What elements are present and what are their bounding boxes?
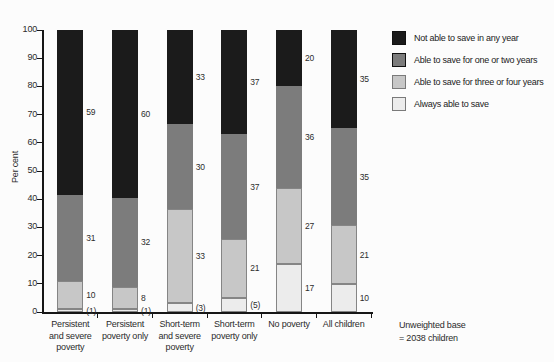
segment-value-label: (5)	[250, 300, 260, 310]
y-axis-line	[42, 30, 44, 314]
legend: Not able to save in any yearAble to save…	[392, 31, 544, 119]
y-tick-label: 10	[8, 278, 37, 288]
unweighted-base-note: Unweighted base = 2038 children	[399, 319, 466, 344]
segment-value-label: (1)	[86, 306, 96, 316]
y-tick	[37, 171, 42, 172]
y-tick	[37, 114, 42, 115]
bar-segment	[276, 264, 302, 312]
x-tick	[152, 314, 153, 318]
y-tick	[37, 283, 42, 284]
bar-segment	[167, 124, 193, 209]
segment-value-label: 33	[196, 72, 205, 82]
bar-segment	[331, 225, 357, 284]
segment-value-label: 17	[305, 283, 314, 293]
bar-segment	[57, 309, 83, 312]
x-tick	[207, 314, 208, 318]
bar-segment	[112, 287, 138, 309]
legend-item: Always able to save	[392, 97, 544, 111]
segment-value-label: (1)	[141, 306, 151, 316]
y-tick-label: 90	[8, 52, 37, 62]
bar-segment	[276, 188, 302, 264]
bar-segment	[167, 30, 193, 124]
legend-label: Not able to save in any year	[414, 33, 519, 43]
bar-segment	[276, 30, 302, 86]
bar-segment	[112, 198, 138, 287]
x-category-label: All children	[302, 319, 386, 331]
bar-segment	[331, 128, 357, 226]
segment-value-label: 27	[305, 221, 314, 231]
segment-value-label: 10	[86, 290, 95, 300]
y-tick	[37, 255, 42, 256]
bar-segment	[221, 134, 247, 238]
segment-value-label: (3)	[196, 303, 206, 313]
segment-value-label: 37	[250, 77, 259, 87]
y-tick	[37, 142, 42, 143]
segment-value-label: 21	[250, 263, 259, 273]
bar-segment	[167, 209, 193, 303]
legend-item: Not able to save in any year	[392, 31, 544, 45]
y-tick	[37, 199, 42, 200]
segment-value-label: 8	[141, 293, 146, 303]
y-tick	[37, 312, 42, 313]
y-tick	[37, 30, 42, 31]
segment-value-label: 32	[141, 237, 150, 247]
stacked-bar-chart: Per cent Not able to save in any yearAbl…	[0, 0, 554, 362]
segment-value-label: 20	[305, 53, 314, 63]
y-tick-label: 100	[8, 24, 37, 34]
x-tick	[316, 314, 317, 318]
x-tick	[97, 314, 98, 318]
segment-value-label: 35	[360, 172, 369, 182]
y-tick-label: 70	[8, 109, 37, 119]
segment-value-label: 33	[196, 251, 205, 261]
y-tick-label: 80	[8, 80, 37, 90]
segment-value-label: 21	[360, 250, 369, 260]
y-tick-label: 30	[8, 221, 37, 231]
bar-segment	[57, 281, 83, 309]
bar-segment	[57, 195, 83, 282]
bar-segment	[112, 30, 138, 198]
y-tick	[37, 58, 42, 59]
bar-segment	[112, 309, 138, 312]
y-tick	[37, 227, 42, 228]
bar-segment	[167, 303, 193, 312]
bar-segment	[331, 284, 357, 312]
segment-value-label: 10	[360, 293, 369, 303]
segment-value-label: 37	[250, 182, 259, 192]
legend-swatch	[392, 97, 406, 111]
segment-value-label: 35	[360, 74, 369, 84]
legend-swatch	[392, 75, 406, 89]
bar-segment	[221, 239, 247, 298]
legend-item: Able to save for one or two years	[392, 53, 544, 67]
y-tick-label: 60	[8, 137, 37, 147]
segment-value-label: 30	[196, 162, 205, 172]
legend-item: Able to save for three or four years	[392, 75, 544, 89]
segment-value-label: 36	[305, 132, 314, 142]
y-tick-label: 40	[8, 193, 37, 203]
bar-segment	[221, 298, 247, 312]
bar-segment	[221, 30, 247, 134]
y-tick-label: 20	[8, 250, 37, 260]
y-tick-label: 50	[8, 165, 37, 175]
x-tick	[261, 314, 262, 318]
segment-value-label: 59	[86, 107, 95, 117]
bar-segment	[57, 30, 83, 195]
legend-label: Able to save for three or four years	[414, 77, 544, 87]
bar-segment	[331, 30, 357, 128]
segment-value-label: 60	[141, 109, 150, 119]
legend-label: Always able to save	[414, 99, 489, 109]
legend-swatch	[392, 31, 406, 45]
bar-segment	[276, 86, 302, 188]
x-tick	[371, 314, 372, 318]
y-tick	[37, 86, 42, 87]
legend-swatch	[392, 53, 406, 67]
legend-label: Able to save for one or two years	[414, 55, 537, 65]
segment-value-label: 31	[86, 233, 95, 243]
y-tick-label: 0	[8, 306, 37, 316]
